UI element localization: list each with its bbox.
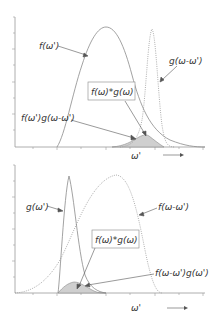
label-f: f(ω-ω') [158,202,189,212]
y-ticks [12,17,15,130]
label-product: f(ω')g(ω-ω') [21,113,75,123]
label-convolution: f(ω)*g(ω) [95,235,138,245]
g-arrow [162,66,177,80]
f-curve-dotted [15,175,162,293]
y-ticks [12,165,15,277]
x-axis-label: ω' [131,151,141,161]
arrow-head [184,306,188,310]
label-g: g(ω-ω') [169,56,203,66]
x-ticks [33,147,203,150]
x-axis-label: ω' [131,303,141,313]
product-arrow [88,274,154,285]
product-area [112,135,164,147]
label-convolution: f(ω)*g(ω) [91,87,134,97]
x-ticks [33,293,203,296]
top-panel: f(ω') g(ω-ω') f(ω)*g(ω) f(ω')g(ω-ω') ω' [12,17,205,161]
conv-arrow [79,248,95,286]
arrow-head [180,153,184,157]
f-arrow [58,46,86,55]
bottom-panel: g(ω') f(ω-ω') f(ω)*g(ω) f(ω-ω')g(ω') ω' [12,165,209,313]
product-arrow [71,120,134,138]
label-f: f(ω') [39,41,59,51]
convolution-diagram: f(ω') g(ω-ω') f(ω)*g(ω) f(ω')g(ω-ω') ω' [0,0,218,328]
f-arrow [142,208,157,214]
label-product: f(ω-ω')g(ω') [155,268,209,278]
label-g: g(ω') [26,202,49,212]
